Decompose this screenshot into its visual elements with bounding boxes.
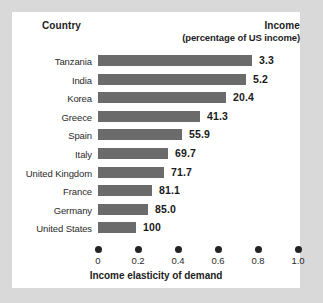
header-income-sublabel: (percentage of US income) [72, 32, 300, 43]
table-row: Greece41.3 [12, 110, 300, 129]
country-label: Greece [12, 112, 92, 123]
bar [98, 148, 168, 159]
header-income-label: Income [110, 20, 300, 31]
income-value: 71.7 [171, 166, 192, 178]
country-label: Korea [12, 93, 92, 104]
bar [98, 74, 246, 85]
country-label: United Kingdom [12, 168, 92, 179]
tick-dot-icon [135, 246, 142, 253]
bar [98, 92, 226, 103]
x-axis-tick-label: 0.2 [124, 255, 152, 266]
income-value: 20.4 [233, 91, 254, 103]
table-row: Korea20.4 [12, 91, 300, 110]
country-label: United States [12, 223, 92, 234]
table-row: United Kingdom71.7 [12, 166, 300, 185]
chart-card: Country Income (percentage of US income)… [12, 12, 300, 288]
income-value: 41.3 [207, 110, 228, 122]
table-row: Spain55.9 [12, 128, 300, 147]
country-label: France [12, 186, 92, 197]
income-value: 55.9 [189, 128, 210, 140]
bar [98, 185, 152, 196]
bar [98, 204, 148, 215]
x-axis: Income elasticity of demand 00.20.40.60.… [98, 246, 298, 288]
income-value: 3.3 [259, 54, 274, 66]
income-value: 100 [143, 221, 161, 233]
income-value: 69.7 [175, 147, 196, 159]
tick-dot-icon [255, 246, 262, 253]
bar [98, 222, 136, 233]
income-value: 85.0 [155, 203, 176, 215]
x-axis-tick-label: 0.8 [244, 255, 272, 266]
table-row: Germany85.0 [12, 203, 300, 222]
tick-dot-icon [215, 246, 222, 253]
bar [98, 129, 182, 140]
table-row: Tanzania3.3 [12, 54, 300, 73]
tick-dot-icon [175, 246, 182, 253]
country-label: Italy [12, 149, 92, 160]
bar [98, 55, 252, 66]
x-axis-tick-label: 0.6 [204, 255, 232, 266]
income-value: 81.1 [159, 184, 180, 196]
country-label: Germany [12, 205, 92, 216]
bar [98, 111, 200, 122]
chart-header: Country Income (percentage of US income) [12, 18, 300, 52]
country-label: Spain [12, 130, 92, 141]
bar [98, 167, 164, 178]
x-axis-tick-label: 0.4 [164, 255, 192, 266]
bar-plot-area: Tanzania3.3India5.2Korea20.4Greece41.3Sp… [12, 54, 300, 244]
table-row: United States100 [12, 221, 300, 240]
country-label: Tanzania [12, 56, 92, 67]
x-axis-tick-label: 1.0 [284, 255, 312, 266]
x-axis-title: Income elasticity of demand [12, 270, 300, 281]
x-axis-tick-label: 0 [84, 255, 112, 266]
header-country-label: Country [42, 20, 81, 31]
table-row: Italy69.7 [12, 147, 300, 166]
country-label: India [12, 75, 92, 86]
tick-dot-icon [295, 246, 302, 253]
table-row: France81.1 [12, 184, 300, 203]
tick-dot-icon [95, 246, 102, 253]
table-row: India5.2 [12, 73, 300, 92]
income-value: 5.2 [253, 73, 268, 85]
